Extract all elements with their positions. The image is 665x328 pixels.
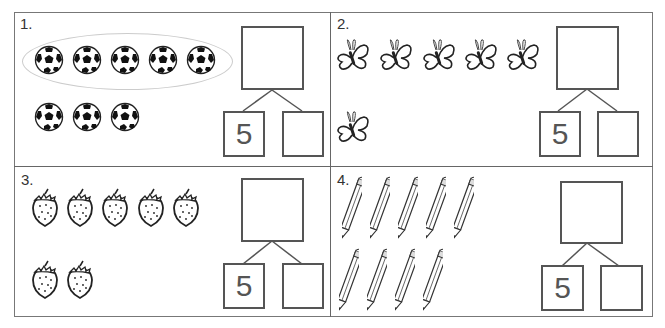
part-right-box[interactable] xyxy=(600,265,643,311)
part-value: 5 xyxy=(543,271,582,305)
whole-box[interactable] xyxy=(560,181,623,244)
part-left-box: 5 xyxy=(541,265,584,311)
